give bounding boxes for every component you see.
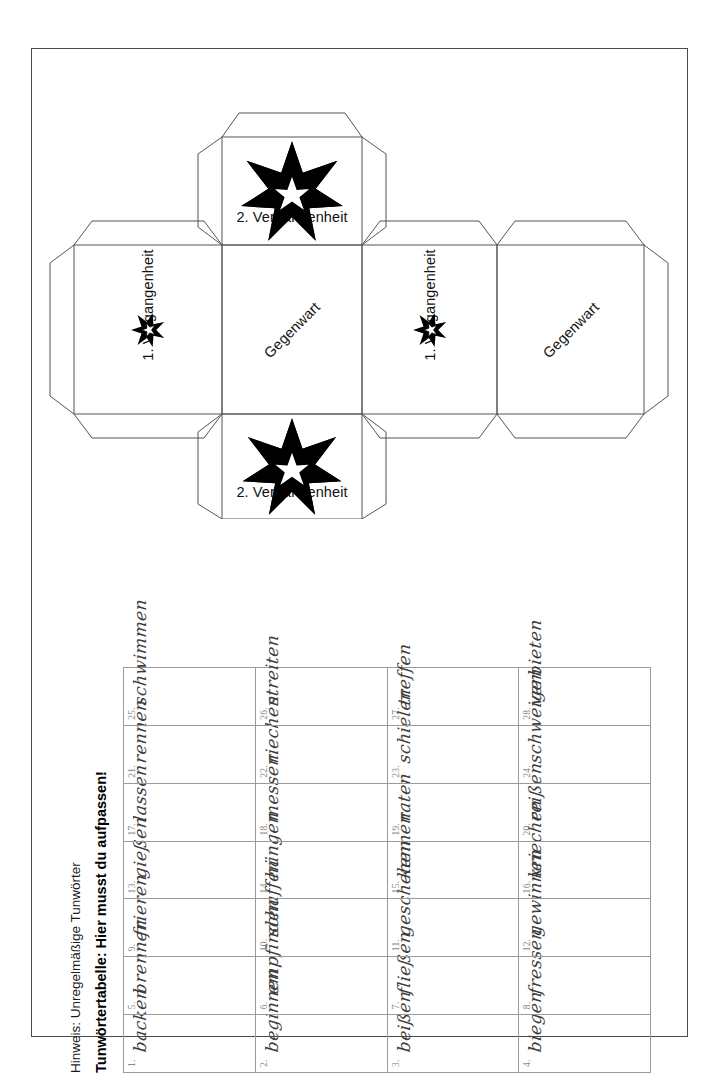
verb-cell[interactable]: 23.schielen — [388, 726, 519, 784]
cube-face-top: 2. Vergangenheit — [222, 137, 362, 245]
verb-table-section: Hinweis: Unregelmäßige Tunwörter Tunwört… — [32, 519, 689, 1038]
verb-cell[interactable]: 22.riechen — [256, 726, 387, 784]
cube-net-diagram: 2. Vergangenheit 1. Vergangenheit — [32, 49, 689, 519]
star-icon — [412, 374, 448, 410]
verb-cell[interactable]: 27.treffen — [388, 668, 519, 726]
verb-number: 16. — [522, 881, 532, 894]
star-group-bottom — [246, 434, 338, 472]
verb-number: 27. — [391, 707, 401, 720]
verb-cell[interactable]: 12.gewinnen — [519, 899, 650, 957]
verb-cell[interactable]: 1.backen — [124, 1015, 255, 1072]
worksheet-page: 2. Vergangenheit 1. Vergangenheit — [31, 48, 688, 1037]
verb-cell[interactable]: 14.hängen — [256, 842, 387, 900]
verb-cell[interactable]: 4.biegen — [519, 1015, 650, 1072]
verb-number: 17. — [127, 823, 137, 836]
verb-number: 2. — [259, 1059, 269, 1067]
cube-face-left: 1. Vergangenheit — [74, 245, 222, 414]
verb-word: schwimmen — [130, 598, 150, 706]
cube-face-label: Gegenwart — [539, 298, 601, 360]
table-row: 1.backen5.brennen9.frieren13.gießen17.la… — [124, 668, 255, 1072]
verb-cell[interactable]: 5.brennen — [124, 957, 255, 1015]
verb-cell[interactable]: 21.rennen — [124, 726, 255, 784]
cube-face-far-right: Gegenwart — [497, 245, 644, 414]
verb-cell[interactable]: 13.gießen — [124, 842, 255, 900]
verb-number: 5. — [127, 1001, 137, 1009]
verb-cell[interactable]: 19.raten — [388, 784, 519, 842]
verb-cell[interactable]: 16.kriechen — [519, 842, 650, 900]
verb-cell[interactable]: 17.lassen — [124, 784, 255, 842]
verb-number: 20. — [522, 823, 532, 836]
verb-number: 21. — [127, 765, 137, 778]
verb-number: 19. — [391, 823, 401, 836]
verb-number: 24. — [522, 765, 532, 778]
verb-number: 9. — [127, 944, 137, 952]
verb-number: 12. — [522, 939, 532, 952]
verb-cell[interactable]: 3.beißen — [388, 1015, 519, 1072]
verb-number: 4. — [522, 1059, 532, 1067]
verb-number: 7. — [391, 1001, 401, 1009]
cube-face-center: Gegenwart — [222, 245, 362, 414]
rotated-content-wrapper: Hinweis: Unregelmäßige Tunwörter Tunwört… — [60, 609, 660, 1077]
table-row: 3.beißen7.fließen11.geschehen15.kennen19… — [387, 668, 519, 1072]
verb-number: 10. — [259, 939, 269, 952]
verb-number: 18. — [259, 823, 269, 836]
verb-cell[interactable]: 18.messen — [256, 784, 387, 842]
verb-cell[interactable]: 25.schwimmen — [124, 668, 255, 726]
verb-number: 25. — [127, 707, 137, 720]
verb-cell[interactable]: 9.frieren — [124, 899, 255, 957]
table-row: 2.beginnen6.empfinden10.schaffen14.hänge… — [255, 668, 387, 1072]
verb-number: 11. — [391, 939, 401, 951]
verb-cell[interactable]: 26.streiten — [256, 668, 387, 726]
verb-cell[interactable]: 7.fließen — [388, 957, 519, 1015]
verb-cell[interactable]: 8.fressen — [519, 957, 650, 1015]
verb-table: 1.backen5.brennen9.frieren13.gießen17.la… — [123, 667, 651, 1073]
verb-number: 1. — [127, 1059, 137, 1067]
verb-number: 23. — [391, 765, 401, 778]
star-icon — [300, 434, 338, 472]
verb-cell[interactable]: 2.beginnen — [256, 1015, 387, 1072]
star-icon — [300, 157, 338, 195]
star-group-top — [246, 157, 338, 195]
cube-face-bottom: 2. Vergangenheit — [222, 414, 362, 519]
cube-face-right: 1. Vergangenheit — [362, 245, 497, 414]
verb-number: 22. — [259, 765, 269, 778]
verb-number: 8. — [522, 1001, 532, 1009]
table-row: 4.biegen8.fressen12.gewinnen16.kriechen2… — [518, 668, 650, 1072]
verb-number: 3. — [391, 1059, 401, 1067]
verb-number: 15. — [391, 881, 401, 894]
verb-cell[interactable]: 15.kennen — [388, 842, 519, 900]
verb-number: 6. — [259, 1001, 269, 1009]
verb-cell[interactable]: 6.empfinden — [256, 957, 387, 1015]
verb-cell[interactable]: 11.geschehen — [388, 899, 519, 957]
verb-cell[interactable]: 28.verbieten — [519, 668, 650, 726]
table-title: Tunwörtertabelle: Hier musst du aufpasse… — [93, 771, 109, 1073]
verb-cell[interactable]: 24.schweigen — [519, 726, 650, 784]
verb-number: 26. — [259, 707, 269, 720]
verb-number: 14. — [259, 881, 269, 894]
verb-cell[interactable]: 20.reißen — [519, 784, 650, 842]
verb-word: verbieten — [525, 618, 545, 706]
verb-number: 28. — [522, 707, 532, 720]
verb-word: streiten — [262, 634, 282, 706]
star-icon — [130, 374, 166, 410]
verb-cell[interactable]: 10.schaffen — [256, 899, 387, 957]
cube-face-label: Gegenwart — [261, 298, 323, 360]
verb-number: 13. — [127, 881, 137, 894]
hint-line: Hinweis: Unregelmäßige Tunwörter — [68, 862, 83, 1073]
verb-word: treffen — [394, 642, 414, 706]
